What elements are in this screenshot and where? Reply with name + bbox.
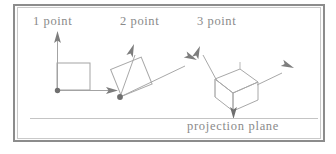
diagram-canvas: 1 point 2 point 3 point	[17, 7, 321, 139]
station-point-dot	[117, 94, 123, 100]
left-axis-arrowhead	[126, 43, 137, 58]
cube-lower-right-face	[233, 82, 258, 111]
left-axis-line	[203, 55, 217, 81]
panel-label-three-point: 3 point	[197, 15, 236, 28]
left-axis-arrowhead	[192, 45, 203, 60]
cube-lower-face	[215, 79, 233, 111]
panel-label-one-point: 1 point	[33, 15, 72, 28]
station-point-dot	[55, 88, 60, 93]
projection-plane-label: projection plane	[187, 120, 279, 133]
panel-label-two-point: 2 point	[120, 15, 159, 28]
panel-two-point	[111, 43, 199, 100]
cube-front-face	[215, 69, 258, 93]
panel-one-point	[54, 31, 118, 94]
right-axis-line	[257, 73, 282, 85]
square-front-face	[57, 63, 90, 90]
panel-three-point	[192, 45, 295, 119]
figure-root: 1 point 2 point 3 point	[0, 0, 336, 154]
right-axis-arrowhead	[281, 60, 296, 71]
